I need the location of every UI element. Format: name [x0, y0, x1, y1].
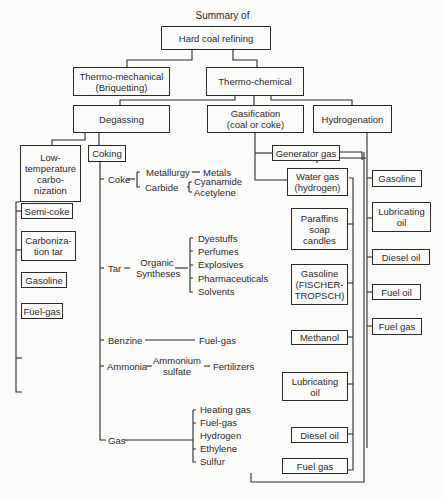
- label-fertilizers: Fertilizers: [213, 361, 254, 372]
- coal-refining-diagram: Summary of Hard coal refining Thermo-mec…: [0, 0, 445, 499]
- label-ammonia: Ammonia: [107, 361, 147, 372]
- box-hydrogenation: Hydrogenation: [313, 105, 392, 133]
- box-gasoline-ltc: Gasoline: [21, 272, 67, 288]
- box-gasification: Gasification (coal or coke): [207, 105, 304, 133]
- label-sulfur: Sulfur: [200, 456, 225, 467]
- box-water-gas: Water gas (hydrogen): [287, 168, 348, 196]
- box-methanol: Methanol: [291, 330, 348, 345]
- box-degassing: Degassing: [73, 105, 170, 133]
- label-hydrogen: Hydrogen: [200, 430, 241, 441]
- label-fuel-gas: Fuel-gas: [200, 417, 237, 428]
- label-metallurgy: Metallurgy: [146, 167, 190, 178]
- label-heating-gas: Heating gas: [200, 404, 251, 415]
- box-hard-coal-refining: Hard coal refining: [161, 26, 271, 50]
- box-coking: Coking: [88, 145, 126, 162]
- label-carbide: Carbide: [145, 182, 178, 193]
- box-fuel-oil-hydrogenation: Fuel oil: [372, 284, 421, 300]
- diagram-title: Summary of: [0, 10, 445, 21]
- label-perfumes: Perfumes: [198, 246, 239, 257]
- label-cyanamide: Cyanamide: [194, 176, 242, 187]
- label-dyestuffs: Dyestuffs: [198, 233, 237, 244]
- box-fuel-gas-hydrogenation: Fuel gas: [372, 318, 422, 335]
- box-lubricating-oil-hydrogenation: Lubricating oil: [372, 202, 431, 232]
- label-explosives: Explosives: [198, 259, 243, 270]
- box-thermo-mechanical: Thermo-mechanical (Briquetting): [73, 67, 170, 96]
- box-fuel-gas-synthesis: Fuel gas: [282, 458, 348, 474]
- label-organic-syntheses: Organic Syntheses: [136, 257, 178, 279]
- box-fuel-gas-ltc: Fuel-gas: [21, 303, 63, 319]
- label-gas: Gas: [108, 435, 125, 446]
- label-acetylene: Acetylene: [194, 187, 236, 198]
- box-thermo-chemical: Thermo-chemical: [206, 67, 304, 96]
- label-benzine-fuel-gas: Fuel-gas: [199, 335, 236, 346]
- box-generator-gas: Generator gas: [272, 145, 340, 161]
- label-coke: Coke: [108, 174, 130, 185]
- box-lubricating-oil-synthesis: Lubricating oil: [282, 372, 348, 401]
- label-solvents: Solvents: [198, 286, 234, 297]
- box-semi-coke: Semi-coke: [21, 203, 73, 219]
- label-ethylene: Ethylene: [200, 443, 237, 454]
- box-diesel-oil-synthesis: Diesel oil: [291, 427, 348, 443]
- box-gasoline-fischer-tropsch: Gasoline (FISCHER- TROPSCH): [291, 264, 348, 305]
- label-ammonium-sulfate: Ammonium sulfate: [150, 355, 204, 377]
- box-paraffins: Paraffins soap candles: [291, 208, 348, 250]
- box-diesel-oil-hydrogenation: Diesel oil: [372, 249, 430, 265]
- box-gasoline-hydrogenation: Gasoline: [372, 170, 422, 187]
- label-tar: Tar: [108, 263, 121, 274]
- box-carbonization-tar: Carboniza- tion tar: [21, 231, 76, 261]
- label-benzine: Benzine: [108, 335, 142, 346]
- box-low-temperature-carbonization: Low- temperature carbo- nization: [20, 145, 81, 202]
- label-pharmaceuticals: Pharmaceuticals: [198, 273, 268, 284]
